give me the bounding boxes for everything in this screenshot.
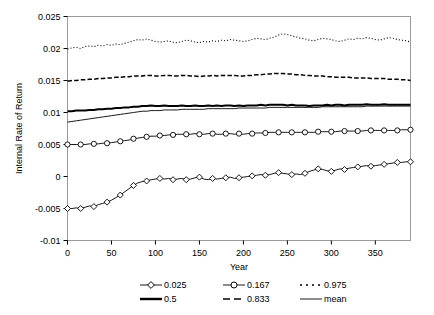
data-point-marker <box>302 130 307 135</box>
y-tick-label: -0.01 <box>40 236 61 246</box>
legend-item-mean[interactable]: mean <box>300 294 347 304</box>
data-point-marker <box>223 131 228 136</box>
x-tick-label: 250 <box>280 248 295 258</box>
data-point-marker <box>342 128 347 133</box>
data-point-marker <box>395 128 400 133</box>
x-tick-label: 0 <box>65 248 70 258</box>
legend-label: 0.025 <box>164 280 187 290</box>
chart-figure: -0.01-0.00500.0050.010.0150.020.02505010… <box>0 0 434 315</box>
data-point-marker <box>263 130 268 135</box>
legend: 0.0250.1670.9750.50.833mean <box>140 280 347 304</box>
y-tick-label: 0.005 <box>38 140 61 150</box>
data-point-marker <box>170 132 175 137</box>
legend-label: 0.5 <box>164 294 177 304</box>
legend-item-0.025[interactable]: 0.025 <box>140 280 187 290</box>
legend-label: mean <box>324 294 347 304</box>
data-point-marker <box>316 129 321 134</box>
y-axis-title: Internal Rate of Return <box>14 83 24 174</box>
data-point-marker <box>197 132 202 137</box>
data-point-marker <box>276 130 281 135</box>
legend-item-0.975[interactable]: 0.975 <box>300 280 347 290</box>
data-point-marker <box>329 129 334 134</box>
data-point-marker <box>91 141 96 146</box>
x-axis: 050100150200250300350 <box>65 241 383 258</box>
data-point-marker <box>104 141 109 146</box>
legend-item-0.833[interactable]: 0.833 <box>223 294 270 304</box>
x-tick-label: 150 <box>192 248 207 258</box>
data-point-marker <box>289 130 294 135</box>
y-tick-label: 0.02 <box>43 44 61 54</box>
y-tick-label: 0 <box>55 172 60 182</box>
legend-marker-diamond <box>148 282 155 289</box>
x-axis-title: Year <box>230 262 248 272</box>
data-point-marker <box>118 139 123 144</box>
x-tick-label: 300 <box>324 248 339 258</box>
data-point-marker <box>368 128 373 133</box>
x-tick-label: 50 <box>106 248 116 258</box>
x-tick-label: 200 <box>236 248 251 258</box>
legend-label: 0.833 <box>247 294 270 304</box>
data-point-marker <box>250 131 255 136</box>
y-tick-label: 0.01 <box>43 108 61 118</box>
data-point-marker <box>408 127 413 132</box>
legend-item-0.167[interactable]: 0.167 <box>223 280 270 290</box>
legend-label: 0.975 <box>324 280 347 290</box>
chart-canvas: -0.01-0.00500.0050.010.0150.020.02505010… <box>0 0 434 315</box>
y-tick-label: 0.025 <box>38 12 61 22</box>
legend-item-0.5[interactable]: 0.5 <box>140 294 177 304</box>
data-point-marker <box>210 131 215 136</box>
data-point-marker <box>157 133 162 138</box>
y-tick-label: -0.005 <box>35 204 61 214</box>
y-tick-label: 0.015 <box>38 76 61 86</box>
legend-label: 0.167 <box>247 280 270 290</box>
legend-marker-circle <box>231 282 237 288</box>
data-point-marker <box>184 132 189 137</box>
data-point-marker <box>355 128 360 133</box>
data-point-marker <box>65 142 70 147</box>
x-tick-label: 350 <box>368 248 383 258</box>
y-axis: -0.01-0.00500.0050.010.0150.020.025 <box>35 12 68 246</box>
data-point-marker <box>382 128 387 133</box>
data-point-marker <box>78 142 83 147</box>
data-point-marker <box>236 131 241 136</box>
data-point-marker <box>131 136 136 141</box>
data-point-marker <box>144 134 149 139</box>
x-tick-label: 100 <box>148 248 163 258</box>
